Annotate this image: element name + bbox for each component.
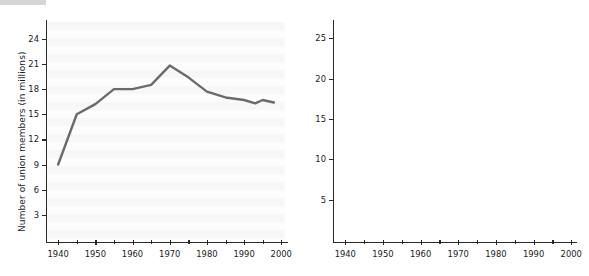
y-tick-label: 12 (15, 134, 39, 144)
x-minor-tick (477, 240, 478, 244)
x-tick-label: 1950 (85, 249, 106, 259)
y-tick-label: 10 (302, 154, 326, 164)
x-minor-tick (263, 240, 264, 244)
y-tick (42, 114, 47, 115)
chart-panel-union-members-percentage: Union members as percentage of total lab… (295, 0, 589, 276)
x-axis-line-right (333, 242, 577, 243)
x-tick (345, 240, 346, 245)
y-tick-label: 24 (15, 34, 39, 44)
x-tick-label: 1970 (448, 249, 469, 259)
y-axis-line-right (333, 20, 334, 242)
chart-panel-union-members-count: Number of union members (in millions) 36… (0, 0, 295, 276)
y-tick (42, 215, 47, 216)
y-tick-label: 15 (302, 114, 326, 124)
x-minor-tick (552, 240, 553, 244)
x-minor-tick (364, 240, 365, 244)
y-tick-label: 6 (15, 185, 39, 195)
x-minor-tick (188, 240, 189, 244)
x-tick (244, 240, 245, 245)
x-tick (496, 240, 497, 245)
x-tick-label: 2000 (561, 249, 582, 259)
y-tick-label: 15 (15, 109, 39, 119)
y-tick-label: 21 (15, 59, 39, 69)
x-tick (534, 240, 535, 245)
y-tick (329, 79, 334, 80)
x-tick (281, 240, 282, 245)
x-tick (421, 240, 422, 245)
x-minor-tick (439, 240, 440, 244)
y-tick (329, 200, 334, 201)
y-tick-label: 25 (302, 33, 326, 43)
x-tick (571, 240, 572, 245)
y-tick (329, 38, 334, 39)
y-tick (42, 64, 47, 65)
x-minor-tick (515, 240, 516, 244)
y-tick (42, 139, 47, 140)
x-tick-label: 1970 (159, 249, 180, 259)
x-tick (170, 240, 171, 245)
y-tick (329, 119, 334, 120)
y-tick (42, 39, 47, 40)
line-series-union-members-count (47, 22, 285, 240)
x-minor-tick (402, 240, 403, 244)
x-tick (58, 240, 59, 245)
x-tick-label: 1940 (47, 249, 68, 259)
y-tick-label: 20 (302, 74, 326, 84)
x-minor-tick (226, 240, 227, 244)
x-tick (383, 240, 384, 245)
x-minor-tick (77, 240, 78, 244)
y-tick (42, 190, 47, 191)
x-tick-label: 1990 (233, 249, 254, 259)
y-tick (42, 165, 47, 166)
y-tick-label: 5 (302, 195, 326, 205)
x-axis-line-left (46, 242, 288, 243)
x-minor-tick (151, 240, 152, 244)
y-tick-label: 3 (15, 210, 39, 220)
y-axis-line-left (46, 20, 47, 242)
y-tick-label: 18 (15, 84, 39, 94)
x-tick-label: 1940 (335, 249, 356, 259)
plot-area-left (47, 22, 285, 240)
x-tick-label: 1960 (122, 249, 143, 259)
y-tick (42, 89, 47, 90)
y-tick (329, 159, 334, 160)
y-tick-label: 9 (15, 160, 39, 170)
x-minor-tick (114, 240, 115, 244)
x-tick-label: 1960 (410, 249, 431, 259)
x-tick (95, 240, 96, 245)
x-tick (207, 240, 208, 245)
x-tick-label: 1990 (523, 249, 544, 259)
x-tick (458, 240, 459, 245)
x-tick-label: 1980 (485, 249, 506, 259)
x-tick-label: 1950 (372, 249, 393, 259)
x-tick-label: 1980 (196, 249, 217, 259)
x-tick (133, 240, 134, 245)
x-tick-label: 2000 (271, 249, 292, 259)
